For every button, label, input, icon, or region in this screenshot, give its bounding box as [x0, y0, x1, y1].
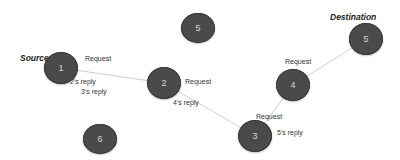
node-4: 4: [276, 69, 310, 101]
node-6-label: 6: [97, 134, 102, 144]
node-5-destination-label: 5: [363, 34, 368, 44]
node-5-destination: 5: [349, 23, 383, 55]
node-2-label: 2: [161, 78, 166, 88]
destination-label: Destination: [330, 12, 376, 22]
request-label-4: Request: [285, 58, 311, 65]
reply-label-5: 5's reply: [277, 129, 303, 136]
request-label-2: Request: [185, 78, 211, 85]
node-5-idle-label: 5: [195, 23, 200, 33]
reply-label-3: 3's reply: [81, 88, 107, 95]
reply-label-2: 2's reply: [70, 78, 96, 85]
reply-label-4: 4's reply: [173, 99, 199, 106]
node-3-label: 3: [252, 131, 257, 141]
node-5-idle: 5: [181, 13, 215, 43]
node-1-label: 1: [58, 63, 63, 73]
node-2: 2: [147, 67, 181, 99]
route-discovery-diagram: Source Destination 1 2 3 4 5 5 6 Request…: [0, 0, 400, 160]
request-label-3: Request: [256, 113, 282, 120]
request-label-1: Request: [85, 55, 111, 62]
node-6: 6: [83, 124, 117, 154]
node-4-label: 4: [290, 80, 295, 90]
node-3: 3: [238, 120, 272, 152]
